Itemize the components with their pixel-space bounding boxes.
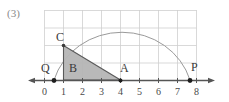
axis-tick-label-4: 4 [115,87,127,97]
region-label-B: B [69,62,77,74]
axis-tick-label-1: 1 [58,87,70,97]
point-marker-Q [52,78,57,83]
point-marker-P [188,78,193,83]
axis-tick-label-2: 2 [77,87,89,97]
point-label-Q: Q [41,62,50,74]
point-label-P: P [191,61,198,73]
point-label-A: A [120,62,129,74]
point-marker-A [119,79,123,83]
axis-tick-label-6: 6 [153,87,165,97]
problem-number-label: (3) [7,7,20,19]
axis-tick-label-0: 0 [39,87,51,97]
point-label-C: C [56,31,64,43]
axis-tick-label-5: 5 [134,87,146,97]
axis-tick-label-7: 7 [172,87,184,97]
axis-tick-label-3: 3 [96,87,108,97]
point-marker-C [62,44,66,48]
axis-tick-label-8: 8 [191,87,203,97]
